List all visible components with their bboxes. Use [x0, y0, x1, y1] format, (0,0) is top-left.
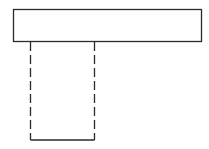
t-shape-diagram [0, 0, 209, 149]
top-bar-rectangle [14, 10, 202, 42]
